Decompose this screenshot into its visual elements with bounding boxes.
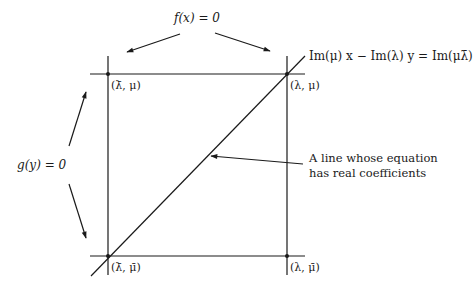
point-dot-top-right <box>285 72 289 76</box>
point-label-bottom-right: (λ, μ̄) <box>290 262 320 273</box>
arrow-g-down <box>69 184 86 238</box>
point-label-top-left: (λ̄, μ) <box>111 80 141 91</box>
line-equation-label: Im(μ) x − Im(λ) y = Im(μλ̄) <box>309 50 473 62</box>
g-equation-label: g(y) = 0 <box>17 159 66 171</box>
arrow-g-up <box>69 92 86 146</box>
point-label-bottom-left: (λ̄, μ̄) <box>111 262 141 273</box>
point-label-top-right: (λ, μ) <box>290 80 320 91</box>
point-dot-bottom-right <box>285 254 289 258</box>
point-dot-bottom-left <box>106 254 110 258</box>
annotation-text-line1: A line whose equation <box>309 151 438 166</box>
arrow-f-left <box>127 34 180 52</box>
arrow-annotation <box>211 156 303 164</box>
point-dot-top-left <box>106 72 110 76</box>
annotation-text-line2: has real coefficients <box>309 166 426 181</box>
f-equation-label: f(x) = 0 <box>174 12 220 24</box>
arrow-f-right <box>215 33 270 51</box>
